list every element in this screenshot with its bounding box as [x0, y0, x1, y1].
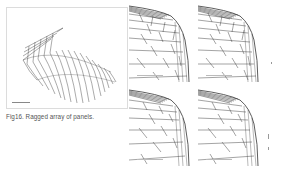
tiled-surface-drawing	[198, 84, 266, 166]
panel-label	[137, 159, 163, 161]
sub-panel-top-right	[198, 0, 266, 82]
figure-caption: Fig16. Ragged array of panels.	[6, 113, 94, 120]
panel-label	[206, 159, 232, 161]
margin-mark	[268, 134, 269, 139]
tiled-surface-drawing	[129, 84, 197, 166]
main-figure-panel	[6, 7, 128, 109]
sub-panel-top-left	[129, 0, 197, 82]
panel-label	[137, 75, 163, 77]
sub-panel-bottom-left	[129, 84, 197, 166]
sub-panel-bottom-right	[198, 84, 266, 166]
tiled-surface-drawing	[129, 0, 197, 82]
margin-mark	[268, 147, 269, 150]
tiled-surface-drawing	[198, 0, 266, 82]
scale-label	[12, 102, 30, 104]
margin-mark	[271, 62, 272, 64]
ragged-panel-array-drawing	[7, 8, 129, 110]
panel-label	[206, 75, 232, 77]
